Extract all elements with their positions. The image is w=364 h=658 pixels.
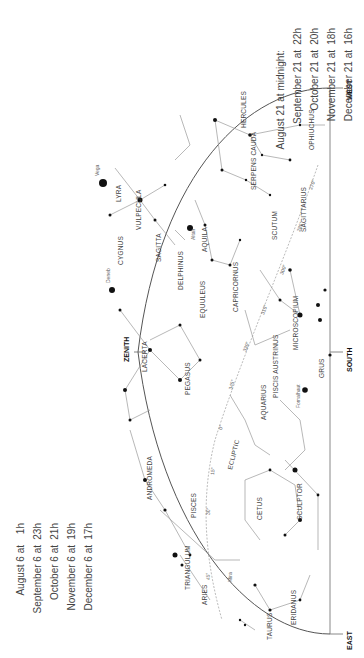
label-eridanus: ERIDANUS [290,589,297,625]
label-ecliptic: ECLIPTIC [226,439,240,471]
star-deneb [109,287,115,293]
time-row: November 21 at18h [323,28,340,150]
time-row: September 21 at22h [289,28,306,150]
label-cygnus: CYGNUS [117,236,124,265]
time-row: August 6 at1h [12,523,29,645]
stars [99,118,332,626]
label-lacerta: LACERTA [141,341,148,372]
time-row: December 21 at16h [340,28,357,150]
label-delphinus: DELPHINUS [177,251,184,290]
label-pisces: PISCES [190,492,197,518]
label-vega: Vega [94,164,100,176]
label-cetus: CETUS [256,497,263,520]
time-row: September 6 at23h [29,523,46,645]
ecliptic-degree: 0° [217,424,224,430]
ecliptic-degree: 345° [227,379,235,391]
ecliptic-degree: 270° [307,179,316,191]
time-table-august-6: August 6 at1h September 6 at23h October … [12,523,97,645]
label-altair: Altair [190,228,196,240]
label-fomalhaut: Fomalhaut [295,384,301,408]
label-microscopium: MICROSCOPIUM [292,296,299,350]
direction-east: EAST [346,631,353,650]
time-row: November 6 at19h [63,523,80,645]
sky-dome-arc [138,88,330,634]
label-capricornus: CAPRICORNUS [232,261,239,312]
ecliptic-degree: 315° [259,304,268,316]
ecliptic-degree: 30° [205,507,211,515]
label-hercules: HERCULES [240,91,247,128]
label-vulpecula: VULPECULA [135,189,142,230]
direction-zenith: ZENITH [123,337,130,362]
label-equuleus: EQUULEUS [199,280,207,318]
time-row: August 21 at midnight: [272,28,289,150]
label-sculptor: SCULPTOR [296,483,303,520]
ecliptic-degree: 330° [241,341,250,353]
label-lyra: LYRA [115,184,122,202]
time-table-august-21: August 21 at midnight: September 21 at22… [272,28,357,150]
label-sagitta: SAGITTA [155,233,162,262]
direction-south: SOUTH [346,348,353,373]
label-serpens-cauda: SERPENS CAUDA [250,131,257,190]
label-pegasus: PEGASUS [184,362,191,395]
label-triangulum: TRIANGULUM [184,545,191,590]
time-row: December 6 at17h [80,523,97,645]
label-grus: GRUS [318,358,325,378]
label-aquila: AQUILA [201,226,209,252]
label-aries: ARIES [201,584,208,605]
time-row: October 6 at21h [46,523,63,645]
label-deneb: Deneb [105,268,111,283]
label-piscis-austrinus: PISCIS AUSTRINUS [272,334,279,398]
star-vega [99,179,107,187]
label-mira: Mira [227,572,233,582]
ecliptic-degree: 300° [278,264,287,276]
label-andromeda: ANDROMEDA [146,455,153,500]
label-taurus: TAURUS [266,612,273,640]
star-fomalhaut [302,387,308,393]
label-aquarius: AQUARIUS [260,384,268,420]
label-scutum: SCUTUM [271,211,278,240]
ecliptic-degree: 45° [204,572,211,580]
ecliptic-degree: 15° [209,467,216,475]
time-row: October 21 at20h [306,28,323,150]
